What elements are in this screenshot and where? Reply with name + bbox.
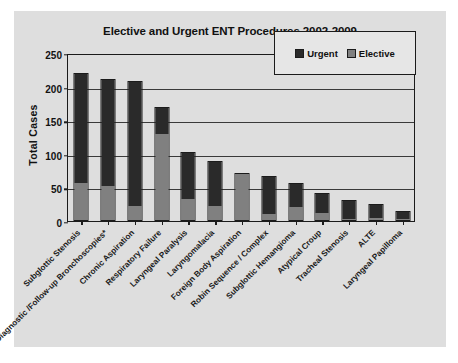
bar-segment-elective bbox=[262, 214, 275, 220]
bar-slot[interactable] bbox=[175, 55, 202, 221]
stacked-bar[interactable] bbox=[234, 173, 249, 221]
legend-entry[interactable]: Elective bbox=[347, 48, 395, 59]
bar-segment-elective bbox=[102, 186, 115, 220]
bar-segment-elective bbox=[289, 207, 302, 220]
bar-segment-elective bbox=[209, 206, 222, 220]
y-axis-title: Total Cases bbox=[27, 90, 39, 180]
bar-segment-urgent bbox=[209, 162, 222, 206]
bar-segment-urgent bbox=[128, 82, 141, 206]
bar-segment-urgent bbox=[155, 108, 168, 134]
stacked-bar[interactable] bbox=[342, 200, 357, 221]
bar-slot[interactable] bbox=[148, 55, 175, 221]
bar-segment-urgent bbox=[75, 74, 88, 184]
bar-slot[interactable] bbox=[202, 55, 229, 221]
y-tick-label: 100 bbox=[45, 150, 62, 161]
bar-slot[interactable] bbox=[362, 55, 389, 221]
bar-slot[interactable] bbox=[95, 55, 122, 221]
y-tick-label: 250 bbox=[45, 50, 62, 61]
stacked-bar[interactable] bbox=[261, 176, 276, 221]
stacked-bar[interactable] bbox=[127, 81, 142, 221]
stacked-bar[interactable] bbox=[315, 193, 330, 221]
bar-segment-urgent bbox=[316, 194, 329, 213]
bar-segment-urgent bbox=[102, 80, 115, 186]
bar-slot[interactable] bbox=[229, 55, 256, 221]
bar-segment-elective bbox=[396, 219, 409, 220]
bar-slot[interactable] bbox=[282, 55, 309, 221]
bar-segment-elective bbox=[75, 183, 88, 220]
x-axis-label-text: ALTE bbox=[356, 228, 377, 249]
bar-slot[interactable] bbox=[255, 55, 282, 221]
stacked-bar[interactable] bbox=[181, 152, 196, 221]
x-axis-labels: Subglottic StenosisDiagnostic /Follow-up… bbox=[67, 224, 415, 344]
bar-segment-elective bbox=[316, 213, 329, 220]
legend-swatch-icon bbox=[347, 49, 356, 58]
bar-segment-urgent bbox=[289, 184, 302, 206]
y-tick-label: 200 bbox=[45, 83, 62, 94]
bar-segment-urgent bbox=[396, 212, 409, 219]
plot-area: 050100150200250 bbox=[67, 54, 415, 222]
bar-segment-elective bbox=[155, 134, 168, 220]
bar-slot[interactable] bbox=[68, 55, 95, 221]
bar-segment-elective bbox=[182, 199, 195, 221]
bar-series bbox=[68, 55, 414, 221]
stacked-bar[interactable] bbox=[208, 161, 223, 221]
bar-slot[interactable] bbox=[336, 55, 363, 221]
bar-segment-urgent bbox=[262, 177, 275, 214]
legend-swatch-icon bbox=[295, 49, 304, 58]
bar-segment-urgent bbox=[343, 201, 356, 218]
legend-entry[interactable]: Urgent bbox=[295, 48, 338, 59]
stacked-bar[interactable] bbox=[101, 79, 116, 221]
stacked-bar[interactable] bbox=[288, 183, 303, 221]
legend-label: Urgent bbox=[307, 48, 338, 59]
chart-legend: UrgentElective bbox=[274, 31, 416, 75]
stacked-bar[interactable] bbox=[74, 73, 89, 221]
stacked-bar[interactable] bbox=[395, 211, 410, 221]
bar-segment-urgent bbox=[182, 153, 195, 199]
bar-segment-elective bbox=[369, 218, 382, 220]
stacked-bar[interactable] bbox=[368, 204, 383, 221]
y-tick-label: 150 bbox=[45, 117, 62, 128]
stacked-bar[interactable] bbox=[154, 107, 169, 221]
legend-label: Elective bbox=[359, 48, 395, 59]
y-tick-label: 50 bbox=[51, 184, 62, 195]
y-tick-label: 0 bbox=[56, 218, 62, 229]
chart-page: Elective and Urgent ENT Procedures 2002-… bbox=[0, 0, 458, 363]
chart-panel: Elective and Urgent ENT Procedures 2002-… bbox=[14, 11, 446, 347]
bar-slot[interactable] bbox=[309, 55, 336, 221]
bar-slot[interactable] bbox=[122, 55, 149, 221]
bar-segment-elective bbox=[128, 206, 141, 220]
bar-slot[interactable] bbox=[389, 55, 416, 221]
bar-segment-elective bbox=[235, 174, 248, 220]
bar-segment-elective bbox=[343, 219, 356, 220]
bar-segment-urgent bbox=[369, 205, 382, 218]
